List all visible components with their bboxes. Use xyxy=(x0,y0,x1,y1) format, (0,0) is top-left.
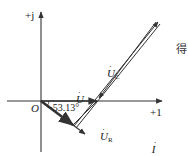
subscript: C xyxy=(115,73,120,81)
dot-mark: · xyxy=(109,62,112,71)
subscript: R xyxy=(108,136,113,144)
label-I: ·I xyxy=(152,143,156,155)
trailing-text: 得 xyxy=(176,44,187,55)
real-axis-label: +1 xyxy=(150,107,162,118)
dot-mark: · xyxy=(102,125,105,134)
origin-label: O xyxy=(31,103,39,114)
phasor-diagram xyxy=(0,0,188,156)
label-UC: ·UC xyxy=(107,67,120,79)
dot-mark: · xyxy=(154,138,157,147)
imaginary-axis-label: +j xyxy=(25,10,34,21)
label-U: ·U xyxy=(76,93,84,105)
dot-mark: · xyxy=(78,88,81,97)
phasor-UC xyxy=(99,22,156,98)
angle-label: −53.13° xyxy=(47,103,79,113)
label-UR: ·UR xyxy=(100,130,113,142)
